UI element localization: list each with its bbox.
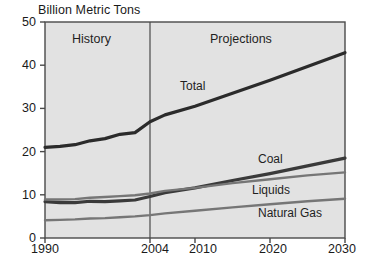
- x-tick-label-1990: 1990: [22, 242, 68, 256]
- x-tick-label-2010: 2010: [180, 242, 226, 256]
- series-label-coal: Coal: [258, 152, 283, 166]
- y-tick-label-10: 10: [8, 188, 36, 202]
- series-label-liquids: Liquids: [252, 183, 290, 197]
- x-tick-label-2004: 2004: [132, 242, 178, 256]
- history-annotation: History: [72, 32, 111, 46]
- y-tick-label-50: 50: [8, 15, 36, 29]
- projections-annotation: Projections: [210, 32, 272, 46]
- y-tick-label-20: 20: [8, 145, 36, 159]
- series-label-natural-gas: Natural Gas: [258, 206, 322, 220]
- x-tick-label-2020: 2020: [250, 242, 296, 256]
- series-label-total: Total: [180, 79, 205, 93]
- plot-canvas: [0, 0, 366, 267]
- y-tick-label-30: 30: [8, 101, 36, 115]
- chart-figure: Billion Metric Tons 50 40 30 20 10 0 199…: [0, 0, 366, 267]
- x-tick-label-2030: 2030: [319, 242, 365, 256]
- y-tick-label-40: 40: [8, 58, 36, 72]
